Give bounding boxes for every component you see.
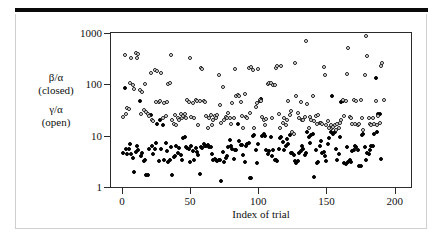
- data-point-closed: [269, 135, 273, 139]
- data-point-open: [273, 83, 277, 87]
- x-axis-tick: [258, 187, 259, 194]
- data-point-closed: [327, 136, 331, 140]
- data-point-open: [245, 116, 249, 120]
- legend-symbol-gamma-alpha: γ/α: [12, 103, 100, 116]
- data-point-open: [192, 116, 196, 120]
- data-point-closed: [296, 159, 300, 163]
- data-point-closed: [157, 159, 161, 163]
- x-axis-tick-label: 200: [386, 196, 403, 207]
- data-point-closed: [323, 154, 327, 158]
- data-point-open: [123, 53, 127, 57]
- data-point-closed: [379, 157, 383, 161]
- data-point-closed: [356, 148, 360, 152]
- y-axis-tick: [104, 136, 111, 137]
- data-point-open: [378, 121, 382, 125]
- data-point-closed: [123, 86, 127, 90]
- x-axis-tick-label: 100: [250, 196, 267, 207]
- data-point-open: [365, 54, 369, 58]
- data-point-open: [200, 67, 204, 71]
- legend-note-open: (open): [12, 116, 100, 129]
- data-point-closed: [292, 153, 296, 157]
- data-point-closed: [132, 170, 136, 174]
- data-point-closed: [196, 153, 200, 157]
- y-axis-tick: [104, 84, 111, 85]
- scatter-points-layer: [111, 33, 411, 187]
- data-point-open: [278, 126, 282, 130]
- data-point-open: [357, 122, 361, 126]
- data-point-open: [349, 116, 353, 120]
- data-point-open: [305, 102, 309, 106]
- data-point-closed: [271, 148, 275, 152]
- data-point-closed: [314, 148, 318, 152]
- data-point-open: [143, 82, 147, 86]
- data-point-closed: [225, 154, 229, 158]
- data-point-closed: [368, 148, 372, 152]
- data-point-closed: [168, 158, 172, 162]
- data-point-open: [217, 73, 221, 77]
- data-point-open: [129, 56, 133, 60]
- data-point-open: [237, 94, 241, 98]
- data-point-closed: [308, 141, 312, 145]
- data-point-open: [221, 85, 225, 89]
- data-point-closed: [263, 134, 267, 138]
- data-point-open: [263, 123, 267, 127]
- data-point-closed: [241, 153, 245, 157]
- data-point-closed: [138, 99, 142, 103]
- reference-line-y1: [113, 187, 409, 188]
- data-point-closed: [375, 130, 379, 134]
- data-point-open: [307, 126, 311, 130]
- data-point-closed: [155, 122, 159, 126]
- data-point-open: [229, 122, 233, 126]
- data-point-open: [239, 100, 243, 104]
- data-point-closed: [147, 147, 151, 151]
- data-point-closed: [359, 164, 363, 168]
- data-point-closed: [275, 159, 279, 163]
- data-point-closed: [234, 148, 238, 152]
- data-point-open: [285, 118, 289, 122]
- data-point-closed: [345, 145, 349, 149]
- data-point-closed: [304, 151, 308, 155]
- data-point-open: [346, 46, 350, 50]
- data-point-open: [342, 114, 346, 118]
- x-axis-tick-label: 50: [185, 196, 196, 207]
- data-point-closed: [164, 141, 168, 145]
- data-point-open: [230, 101, 234, 105]
- data-point-closed: [338, 135, 342, 139]
- data-point-open: [264, 117, 268, 121]
- data-point-closed: [179, 153, 183, 157]
- data-point-closed: [255, 161, 259, 165]
- data-point-closed: [146, 173, 150, 177]
- data-point-open: [149, 71, 153, 75]
- y-axis-tick-label: 100: [86, 79, 103, 90]
- data-point-closed: [198, 172, 202, 176]
- data-point-open: [286, 99, 290, 103]
- data-point-closed: [337, 152, 341, 156]
- data-point-closed: [374, 76, 378, 80]
- data-point-closed: [169, 145, 173, 149]
- data-point-closed: [247, 141, 251, 145]
- data-point-open: [294, 94, 298, 98]
- data-point-closed: [334, 147, 338, 151]
- data-point-open: [363, 73, 367, 77]
- data-point-open: [374, 99, 378, 103]
- data-point-open: [259, 99, 263, 103]
- x-axis-tick: [190, 187, 191, 194]
- data-point-open: [293, 61, 297, 65]
- data-point-open: [164, 114, 168, 118]
- data-point-closed: [318, 144, 322, 148]
- data-point-open: [168, 81, 172, 85]
- data-point-closed: [228, 138, 232, 142]
- data-point-open: [289, 109, 293, 113]
- data-point-open: [270, 116, 274, 120]
- data-point-closed: [277, 147, 281, 151]
- data-point-closed: [249, 176, 253, 180]
- data-point-open: [360, 116, 364, 120]
- y-axis-tick-label: 1: [97, 182, 103, 193]
- data-point-closed: [153, 147, 157, 151]
- data-point-open: [132, 87, 136, 91]
- data-point-open: [252, 126, 256, 130]
- data-point-closed: [151, 152, 155, 156]
- data-point-open: [248, 111, 252, 115]
- plot-panel: 1101001000 050100150200: [110, 32, 412, 188]
- data-point-open: [303, 115, 307, 119]
